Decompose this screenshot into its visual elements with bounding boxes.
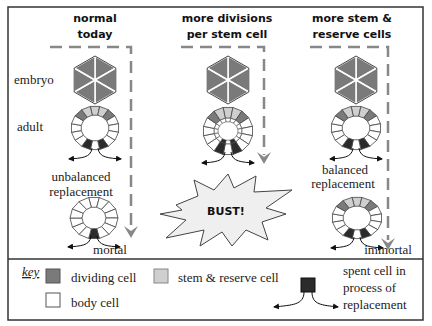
key-swatch-stem [154, 269, 168, 283]
bust-starburst: BUST! [160, 174, 292, 246]
caption-unbalanced: unbalanced [51, 169, 111, 184]
caption-replacement-3: replacement [311, 176, 375, 191]
svg-text:more divisions: more divisions [182, 12, 273, 25]
key-swatch-dividing [46, 269, 60, 283]
stem-cell-diagram: normal today more divisions per stem cel… [0, 0, 432, 326]
row-label-embryo: embryo [14, 72, 54, 87]
caption-balanced: balanced [322, 162, 369, 177]
key-label-spent-1: spent cell in [343, 263, 406, 278]
key-label-spent-2: process of [343, 280, 397, 295]
svg-text:reserve cells: reserve cells [313, 28, 392, 41]
key-label-dividing: dividing cell [71, 270, 137, 285]
row-label-adult: adult [17, 119, 43, 134]
column-header-more-divisions: more divisions per stem cell [182, 12, 273, 41]
svg-text:more stem &: more stem & [312, 12, 392, 25]
key-label-body: body cell [71, 295, 119, 310]
key-label-stem: stem & reserve cell [178, 270, 279, 285]
column-header-more-stem: more stem & reserve cells [312, 12, 392, 41]
embryo-hexagons [74, 56, 377, 104]
caption-replacement-1: replacement [49, 184, 113, 199]
svg-text:BUST!: BUST! [207, 205, 245, 218]
key-title: key [22, 264, 40, 279]
svg-text:today: today [78, 28, 113, 41]
svg-text:normal: normal [73, 12, 116, 25]
svg-text:per stem cell: per stem cell [187, 28, 268, 41]
legend: key dividing cell stem & reserve cell bo… [22, 263, 407, 312]
key-label-spent-3: replacement [343, 297, 407, 312]
outcome-mortal: mortal [93, 242, 127, 257]
column-header-normal: normal today [73, 12, 116, 41]
outcome-immortal: immortal [364, 242, 412, 257]
key-swatch-spent [301, 278, 315, 292]
key-swatch-body [46, 293, 60, 307]
